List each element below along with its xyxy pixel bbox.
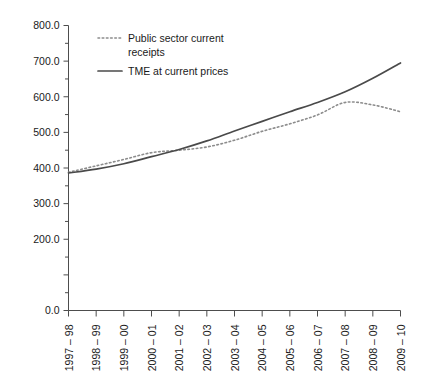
y-axis-tick-label: 200.0 — [33, 233, 59, 245]
legend-label-line2: receipts — [128, 46, 165, 58]
x-axis-tick-label: 2007 – 08 — [339, 324, 351, 371]
x-axis-tick-label: 2005 – 06 — [284, 324, 296, 371]
chart-container: 0.0200.0300.0400.0500.0600.0700.0800.0 1… — [0, 0, 421, 387]
x-axis-tick-label: 2001 – 02 — [173, 324, 185, 371]
line-chart: 0.0200.0300.0400.0500.0600.0700.0800.0 1… — [0, 0, 421, 387]
x-axis-tick-label: 2009 – 10 — [395, 324, 407, 371]
y-axis-tick-label: 700.0 — [33, 55, 59, 67]
legend-label-line1: Public sector current — [128, 32, 224, 44]
x-axis-tick-label: 2003 – 04 — [229, 324, 241, 371]
x-axis-tick-label: 2004 – 05 — [256, 324, 268, 371]
y-axis-tick-label: 400.0 — [33, 162, 59, 174]
y-axis-tick-label: 0.0 — [45, 304, 60, 316]
y-axis-tick-label: 300.0 — [33, 197, 59, 209]
x-axis-tick-label: 2000 – 01 — [146, 324, 158, 371]
y-axis-tick-label: 800.0 — [33, 19, 59, 31]
x-axis-tick-label: 1997 – 98 — [63, 324, 75, 371]
x-axis-tick-label: 2008 – 09 — [367, 324, 379, 371]
y-axis-tick-label: 500.0 — [33, 126, 59, 138]
y-axis-tick-label: 600.0 — [33, 91, 59, 103]
x-axis-tick-label: 1998 – 99 — [90, 324, 102, 371]
legend-label-line1: TME at current prices — [128, 65, 228, 77]
x-axis-tick-label: 2006 – 07 — [312, 324, 324, 371]
x-axis-tick-label: 2002 – 03 — [201, 324, 213, 371]
x-axis-tick-label: 1999 – 00 — [118, 324, 130, 371]
